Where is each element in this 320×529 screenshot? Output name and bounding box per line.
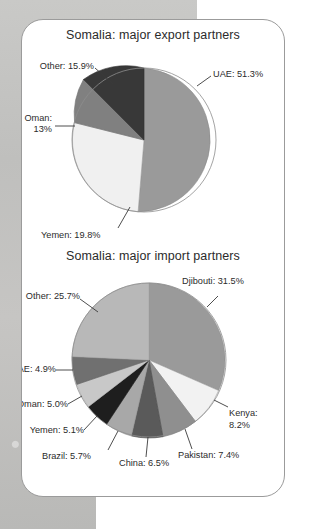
import-label-kenya-line2: 8.2%: [229, 420, 250, 431]
import-label-pakistan: Pakistan: 7.4%: [178, 450, 239, 461]
leader-line-djibouti: [207, 296, 218, 307]
import-chart-panel: Somalia: major import partners: [22, 247, 284, 495]
export-chart-title: Somalia: major export partners: [22, 28, 284, 42]
export-pie-area: UAE: 51.3% Other: 15.9% Oman: 13% Yemen:…: [22, 42, 285, 247]
export-label-oman-line2: 13%: [21, 124, 52, 135]
export-chart-panel: Somalia: major export partners: [22, 20, 284, 247]
export-label-yemen: Yemen: 19.8%: [41, 230, 100, 241]
export-label-uae: UAE: 51.3%: [213, 69, 263, 80]
leader-line-kenya: [214, 400, 228, 407]
import-label-yemen: Yemen: 5.1%: [21, 425, 84, 436]
import-label-uae: UAE: 4.9%: [21, 364, 56, 375]
leader-line-pakistan: [185, 429, 192, 449]
import-label-oman: Oman: 5.0%: [21, 399, 68, 410]
leader-line-yemen: [118, 207, 130, 228]
pie-slice-other: [72, 283, 149, 360]
export-pie-slices: [72, 66, 210, 212]
leader-line-uae: [197, 76, 211, 86]
import-label-other: Other: 25.7%: [21, 291, 80, 302]
leader-line-oman: [68, 396, 82, 404]
leader-line-yemen: [84, 416, 97, 430]
import-label-kenya-line1: Kenya:: [229, 408, 258, 419]
charts-card: Somalia: major export partners: [21, 19, 285, 497]
import-label-brazil: Brazil: 5.7%: [42, 451, 91, 462]
import-chart-title: Somalia: major import partners: [22, 249, 284, 263]
export-label-oman-line1: Oman:: [21, 113, 52, 124]
pie-slice-uae: [138, 68, 210, 212]
leader-line-brazil: [108, 431, 118, 450]
import-label-djibouti: Djibouti: 31.5%: [182, 276, 244, 287]
import-label-china: China: 6.5%: [119, 458, 169, 469]
leader-line-china: [146, 437, 148, 457]
export-label-other: Other: 15.9%: [21, 61, 94, 72]
import-pie-area: Djibouti: 31.5% Other: 25.7% UAE: 4.9% O…: [22, 263, 285, 495]
